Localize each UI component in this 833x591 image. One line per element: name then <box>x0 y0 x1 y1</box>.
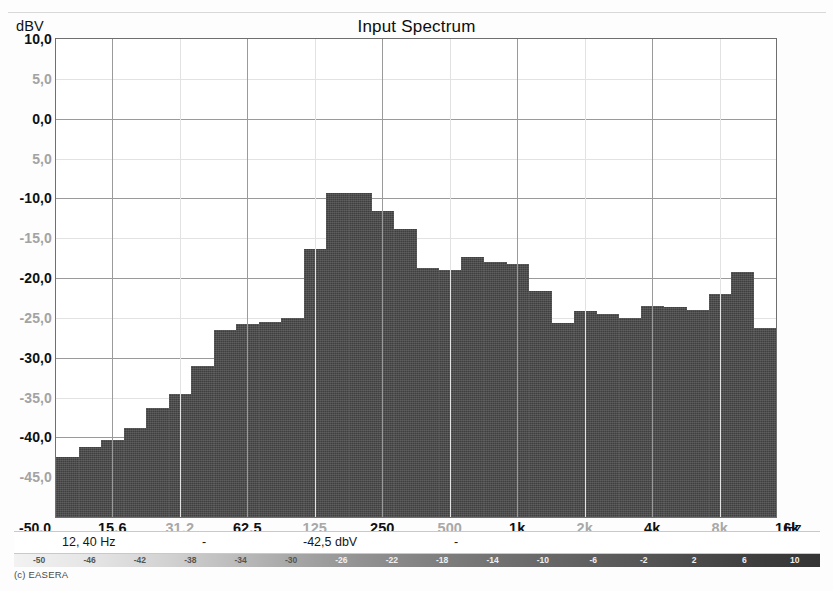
gridline-vertical <box>382 39 383 517</box>
color-scale-bar: -50-46-42-38-34-30-26-22-18-14-10-6-2261… <box>14 554 820 567</box>
scale-tick-label: -46 <box>83 554 95 567</box>
spectrum-bar <box>754 328 777 517</box>
spectrum-bar <box>259 322 282 517</box>
y-axis-tick-label: -25,0 <box>3 311 55 325</box>
y-axis-tick-label: -15,0 <box>3 231 55 245</box>
gridline-horizontal <box>56 198 776 199</box>
readout-separator-2: - <box>454 534 458 551</box>
y-axis-tick-label: -20,0 <box>3 271 55 285</box>
scale-tick-label: -34 <box>235 554 247 567</box>
spectrum-bar <box>79 447 102 517</box>
scale-tick-label: 10 <box>790 554 799 567</box>
spectrum-bar <box>191 366 214 517</box>
gridline-vertical <box>720 39 721 517</box>
spectrum-bar <box>146 408 169 517</box>
top-divider <box>8 12 826 13</box>
credit-label: (c) EASERA <box>14 569 68 581</box>
spectrum-bar <box>596 314 619 517</box>
gridline-vertical <box>180 39 181 517</box>
spectrum-bar <box>56 457 79 517</box>
gridline-horizontal <box>56 119 776 120</box>
spectrum-bar <box>731 272 754 517</box>
y-axis-tick-label: -35,0 <box>3 391 55 405</box>
scale-tick-label: -18 <box>436 554 448 567</box>
scale-tick-label: -22 <box>386 554 398 567</box>
y-axis-tick-label: -10,0 <box>3 191 55 205</box>
plot-area[interactable] <box>55 38 777 518</box>
spectrum-bar <box>686 310 709 517</box>
spectrum-bar <box>349 193 372 517</box>
readout-frequency: 12, 40 Hz <box>62 534 116 551</box>
scale-tick-label: -10 <box>537 554 549 567</box>
gridline-vertical <box>247 39 248 517</box>
scale-tick-label: -30 <box>285 554 297 567</box>
spectrum-bar <box>529 291 552 517</box>
scale-tick-label: -6 <box>590 554 598 567</box>
gridline-vertical <box>652 39 653 517</box>
scale-tick-label: -14 <box>486 554 498 567</box>
spectrum-bar <box>214 330 237 517</box>
scale-tick-label: -26 <box>335 554 347 567</box>
spectrum-bar <box>484 262 507 517</box>
spectrum-bar <box>124 428 147 517</box>
gridline-vertical <box>112 39 113 517</box>
scale-tick-label: -2 <box>640 554 648 567</box>
scale-tick-label: -42 <box>134 554 146 567</box>
spectrum-bar <box>461 257 484 518</box>
gridline-horizontal <box>56 79 776 80</box>
spectrum-bar <box>664 307 687 517</box>
spectrum-bar <box>394 229 417 517</box>
y-axis-tick-label: -45,0 <box>3 470 55 484</box>
scale-tick-label: -50 <box>33 554 45 567</box>
readout-level: -42,5 dbV <box>303 534 357 551</box>
spectrum-bar <box>281 318 304 517</box>
scale-tick-label: 6 <box>742 554 747 567</box>
spectrum-bar <box>416 268 439 517</box>
y-axis-tick-label: 5,0 <box>3 72 55 86</box>
scale-tick-label: 2 <box>692 554 697 567</box>
readout-separator-1: - <box>202 534 206 551</box>
scale-tick-label: -38 <box>184 554 196 567</box>
spectrum-analyzer-view: Input Spectrum dBV 10,05,00,05,0-10,0-15… <box>0 0 833 591</box>
y-axis-tick-label: -30,0 <box>3 351 55 365</box>
y-axis-tick-label: 5,0 <box>3 152 55 166</box>
y-axis-labels: 10,05,00,05,0-10,0-15,0-20,0-25,0-30,0-3… <box>0 38 55 518</box>
y-axis-tick-label: 0,0 <box>3 112 55 126</box>
y-axis-tick-label: 10,0 <box>3 32 55 46</box>
spectrum-bar <box>326 193 349 517</box>
readout-bar: 12, 40 Hz - -42,5 dbV - <box>14 531 820 554</box>
chart-title: Input Spectrum <box>0 17 833 37</box>
chart-region: Input Spectrum dBV 10,05,00,05,0-10,0-15… <box>0 16 833 532</box>
gridline-horizontal <box>56 159 776 160</box>
spectrum-bar <box>619 318 642 517</box>
y-axis-tick-label: -40,0 <box>3 430 55 444</box>
gridline-vertical <box>517 39 518 517</box>
gridline-vertical <box>315 39 316 517</box>
gridline-vertical <box>450 39 451 517</box>
spectrum-bar <box>551 323 574 517</box>
gridline-vertical <box>585 39 586 517</box>
